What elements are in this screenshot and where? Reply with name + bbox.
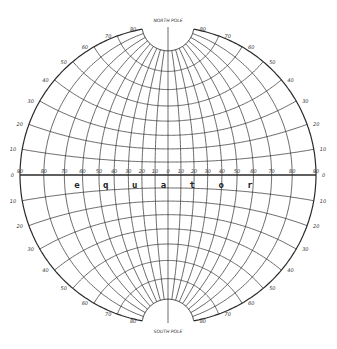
south-pole-label: SOUTH POLE <box>154 329 183 334</box>
latitude-label: 70 <box>225 33 231 39</box>
latitude-label: 10 <box>10 146 16 152</box>
latitude-label: 40 <box>42 267 48 273</box>
latitude-label: 10 <box>320 146 326 152</box>
latitude-label: 30 <box>302 98 308 104</box>
longitude-label: 40 <box>111 168 117 174</box>
latitude-label: 10 <box>320 198 326 204</box>
latitude-label: 50 <box>269 59 275 65</box>
latitude-label: 20 <box>313 121 319 127</box>
latitude-label: 20 <box>17 223 23 229</box>
latitude-label: 40 <box>287 77 293 83</box>
latitude-label: 80 <box>200 318 206 324</box>
longitude-label: 20 <box>191 168 197 174</box>
latitude-label: 30 <box>302 246 308 252</box>
latitude-label: 30 <box>27 246 33 252</box>
graticule <box>20 27 316 323</box>
latitude-label: 70 <box>105 33 111 39</box>
latitude-label: 40 <box>42 77 48 83</box>
longitude-label: 0 <box>166 168 169 174</box>
longitude-label: 50 <box>96 168 102 174</box>
latitude-label: 10 <box>10 198 16 204</box>
longitude-label: 30 <box>204 168 210 174</box>
longitude-label: 40 <box>219 168 225 174</box>
longitude-label: 70 <box>268 168 274 174</box>
longitude-label: 60 <box>79 168 85 174</box>
latitude-label: 30 <box>27 98 33 104</box>
latitude-label: 20 <box>313 223 319 229</box>
longitude-label: 30 <box>125 168 131 174</box>
latitude-label: 60 <box>248 300 254 306</box>
latitude-label: 60 <box>248 44 254 50</box>
latitude-label: 0 <box>322 172 325 178</box>
latitude-label: 80 <box>200 26 206 32</box>
longitude-label: 10 <box>178 168 184 174</box>
longitude-label: 70 <box>61 168 67 174</box>
latitude-label: 70 <box>225 311 231 317</box>
longitude-label: 80 <box>41 168 47 174</box>
longitude-label: 20 <box>139 168 145 174</box>
latitude-label: 20 <box>17 121 23 127</box>
globe-grid: 9080706050403020100102030405060708090808… <box>0 0 337 349</box>
longitude-label: 80 <box>289 168 295 174</box>
longitude-label: 10 <box>152 168 158 174</box>
latitude-label: 70 <box>105 311 111 317</box>
equator-label: e q u a t o r <box>74 180 261 190</box>
latitude-label: 40 <box>287 267 293 273</box>
longitude-label: 50 <box>234 168 240 174</box>
longitude-label: 90 <box>17 168 23 174</box>
latitude-label: 80 <box>130 26 136 32</box>
latitude-label: 50 <box>60 59 66 65</box>
latitude-label: 0 <box>11 172 14 178</box>
latitude-label: 50 <box>60 285 66 291</box>
longitude-label: 90 <box>313 168 319 174</box>
latitude-label: 60 <box>82 300 88 306</box>
north-pole-label: NORTH POLE <box>153 18 182 23</box>
longitude-label: 60 <box>250 168 256 174</box>
latitude-label: 60 <box>82 44 88 50</box>
latitude-label: 50 <box>269 285 275 291</box>
latitude-label: 80 <box>130 318 136 324</box>
